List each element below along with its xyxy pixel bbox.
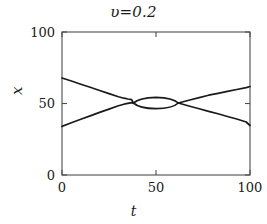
x-tick-label-0: 0 (42, 180, 82, 195)
y-tick-label-50: 50 (15, 96, 55, 111)
figure-container: υ=0.2 x t 100 50 0 0 50 100 (0, 0, 267, 224)
axes-frame (62, 32, 250, 175)
x-axis-label: t (0, 203, 267, 219)
y-tick-label-100: 100 (15, 25, 55, 40)
x-tick-label-50: 50 (136, 180, 176, 195)
y-axis-label: x (8, 87, 26, 95)
x-tick-label-100: 100 (230, 180, 267, 195)
chart-title: υ=0.2 (0, 3, 267, 21)
